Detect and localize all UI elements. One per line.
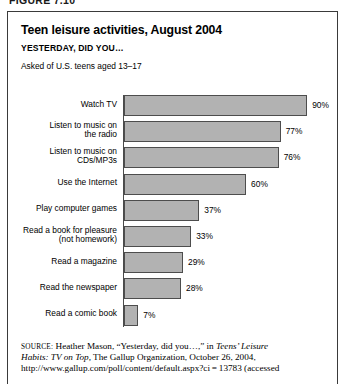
- bar-label-line: Read a magazine: [7, 257, 117, 267]
- figure-box: Teen leisure activities, August 2004 YES…: [7, 11, 338, 384]
- bar-value-label: 33%: [196, 231, 213, 241]
- source-line-1-text: Heather Mason, “Yesterday, did you…,” in: [53, 341, 216, 351]
- bar-label-line: (not homework): [7, 235, 117, 245]
- bar: [124, 174, 246, 195]
- bar-row: Play computer games37%: [8, 198, 337, 224]
- bar-label: Use the Internet: [7, 178, 117, 188]
- bar-value-label: 76%: [284, 152, 301, 162]
- bar: [124, 278, 181, 299]
- figure-title: Teen leisure activities, August 2004: [21, 23, 222, 37]
- bar-row: Use the Internet60%: [8, 172, 337, 198]
- bar-label-line: Read a comic book: [7, 309, 117, 319]
- bar-value-label: 29%: [188, 257, 205, 267]
- bar-label: Read a comic book: [7, 309, 117, 319]
- bar-label: Listen to music onthe radio: [7, 121, 117, 140]
- bar-value-label: 90%: [312, 100, 329, 110]
- bar-label-line: the radio: [7, 130, 117, 140]
- bar: [124, 121, 281, 142]
- bar-chart: Watch TV90%Listen to music onthe radio77…: [8, 91, 337, 327]
- bar: [124, 95, 307, 116]
- bar-value-label: 7%: [143, 310, 155, 320]
- bar-row: Watch TV90%: [8, 93, 337, 119]
- bar: [124, 147, 279, 168]
- source-italic-1: Teens’ Leisure: [216, 341, 268, 351]
- bar-label: Read a book for pleasure(not homework): [7, 226, 117, 245]
- bar-label: Play computer games: [7, 204, 117, 214]
- bar-row: Listen to music onthe radio77%: [8, 119, 337, 145]
- figure-number: FIGURE 7.10: [9, 0, 75, 5]
- bar-row: Read a magazine29%: [8, 250, 337, 276]
- bar-row: Read the newspaper28%: [8, 276, 337, 302]
- bar-value-label: 28%: [186, 283, 203, 293]
- bar-value-label: 37%: [204, 205, 221, 215]
- bar-label-line: Watch TV: [7, 100, 117, 110]
- source-line-2: Habits: TV on Top, The Gallup Organizati…: [21, 352, 321, 363]
- source-label: SOURCE:: [21, 342, 53, 351]
- asked-note: Asked of U.S. teens aged 13–17: [21, 61, 142, 71]
- bar: [124, 200, 199, 221]
- bar-value-label: 60%: [251, 179, 268, 189]
- bar-label: Read a magazine: [7, 257, 117, 267]
- source-line-1: SOURCE: Heather Mason, “Yesterday, did y…: [21, 341, 321, 352]
- bar-label: Listen to music onCDs/MP3s: [7, 147, 117, 166]
- bar: [124, 226, 191, 247]
- source-citation: SOURCE: Heather Mason, “Yesterday, did y…: [21, 341, 321, 374]
- bar-label-line: Read the newspaper: [7, 283, 117, 293]
- bar-value-label: 77%: [286, 126, 303, 136]
- bar-row: Read a comic book7%: [8, 303, 337, 329]
- bar-label-line: CDs/MP3s: [7, 156, 117, 166]
- bar-row: Read a book for pleasure(not homework)33…: [8, 224, 337, 250]
- source-line-2-text: The Gallup Organization, October 26, 200…: [91, 352, 256, 362]
- bar-label-line: Use the Internet: [7, 178, 117, 188]
- bar: [124, 305, 138, 326]
- figure-subtitle: YESTERDAY, DID YOU…: [21, 43, 124, 53]
- bar-label: Watch TV: [7, 100, 117, 110]
- bar-row: Listen to music onCDs/MP3s76%: [8, 145, 337, 171]
- source-italic-2: Habits: TV on Top,: [21, 352, 91, 362]
- bar-label: Read the newspaper: [7, 283, 117, 293]
- bar: [124, 252, 183, 273]
- bar-label-line: Play computer games: [7, 204, 117, 214]
- source-line-3: http://www.gallup.com/poll/content/defau…: [21, 363, 321, 374]
